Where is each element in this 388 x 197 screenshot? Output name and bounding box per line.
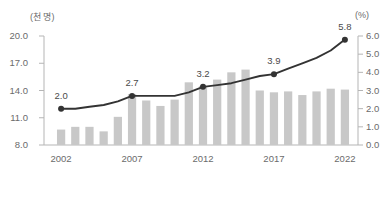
- right-axis-tick-label: 2.0: [366, 103, 388, 114]
- data-point-label: 5.8: [330, 21, 360, 32]
- left-axis-tick-label: 20.0: [2, 30, 28, 41]
- line-marker: [271, 71, 277, 77]
- bar: [156, 106, 164, 145]
- line-marker: [200, 84, 206, 90]
- right-axis-tick-label: 5.0: [366, 48, 388, 59]
- bar: [171, 100, 179, 145]
- bar: [142, 100, 150, 145]
- right-axis-tick-label: 4.0: [366, 66, 388, 77]
- x-axis-tick-label: 2007: [112, 153, 152, 164]
- data-point-label: 2.0: [46, 90, 76, 101]
- bar: [270, 92, 278, 145]
- bar: [341, 90, 349, 145]
- right-axis-tick-label: 0.0: [366, 139, 388, 150]
- left-axis-tick-label: 17.0: [2, 57, 28, 68]
- x-axis-tick-label: 2012: [183, 153, 223, 164]
- data-point-label: 2.7: [117, 77, 147, 88]
- data-point-label: 3.9: [259, 55, 289, 66]
- bar: [85, 127, 93, 145]
- bar: [71, 127, 79, 145]
- bar: [256, 91, 264, 146]
- bar: [57, 130, 65, 145]
- bar: [199, 86, 207, 145]
- bar: [327, 89, 335, 145]
- right-axis-tick-label: 6.0: [366, 30, 388, 41]
- left-axis-tick-label: 11.0: [2, 112, 28, 123]
- line-marker: [58, 106, 64, 112]
- line-marker: [342, 37, 348, 43]
- data-point-label: 3.2: [188, 68, 218, 79]
- right-axis-tick-label: 1.0: [366, 121, 388, 132]
- bar: [284, 91, 292, 145]
- left-axis-tick-label: 8.0: [2, 139, 28, 150]
- bar: [298, 95, 306, 145]
- bar: [114, 117, 122, 145]
- x-axis-tick-label: 2017: [254, 153, 294, 164]
- x-axis-tick-label: 2002: [41, 153, 81, 164]
- bar: [213, 80, 221, 145]
- chart-container: (천 명) (%) 8.011.014.017.020.00.01.02.03.…: [0, 0, 388, 197]
- line-marker: [129, 93, 135, 99]
- right-axis-tick-label: 3.0: [366, 85, 388, 96]
- bar: [128, 94, 136, 145]
- bar: [312, 91, 320, 145]
- x-axis-tick-label: 2022: [325, 153, 365, 164]
- left-axis-tick-label: 14.0: [2, 85, 28, 96]
- bar: [100, 131, 108, 145]
